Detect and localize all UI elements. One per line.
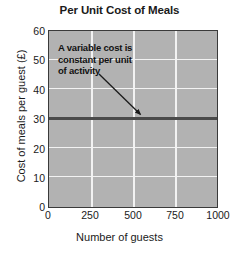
chart-container: Per Unit Cost of Meals 60 50 40 30 20 10… [0, 0, 239, 253]
plot-area: A variable cost is constant per unit of … [48, 30, 218, 208]
annotation-label: A variable cost is constant per unit of … [58, 42, 132, 77]
chart-title: Per Unit Cost of Meals [0, 4, 239, 16]
x-tick-label-1000: 1000 [193, 210, 239, 221]
x-axis-title: Number of guests [0, 231, 239, 243]
y-axis-title: Cost of meals per guest (£) [15, 21, 27, 211]
data-series-line [49, 117, 217, 120]
